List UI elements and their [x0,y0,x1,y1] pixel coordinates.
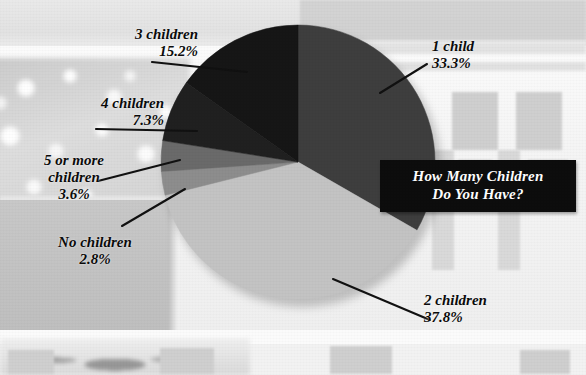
chart-title-plaque: How Many Children Do You Have? [380,160,576,212]
background-lower-blocks [0,344,586,375]
background-block [520,350,570,374]
slice-label-2-children: 2 children 37.8% [424,292,554,326]
building-window [516,92,562,150]
chart-title-text: How Many Children Do You Have? [413,168,544,203]
chart-canvas: 3 children 15.2% 4 children 7.3% 5 or mo… [0,0,586,375]
building-window [452,92,498,150]
slice-label-4-children: 4 children 7.3% [14,95,164,129]
slice-label-no-children: No children 2.8% [20,234,170,268]
background-block [8,350,54,374]
background-block [330,346,392,374]
slice-label-1-child: 1 child 33.3% [432,38,552,72]
background-block [160,348,214,374]
slice-label-5-or-more-children: 5 or more children 3.6% [4,152,144,202]
slice-label-3-children: 3 children 15.2% [48,26,198,60]
